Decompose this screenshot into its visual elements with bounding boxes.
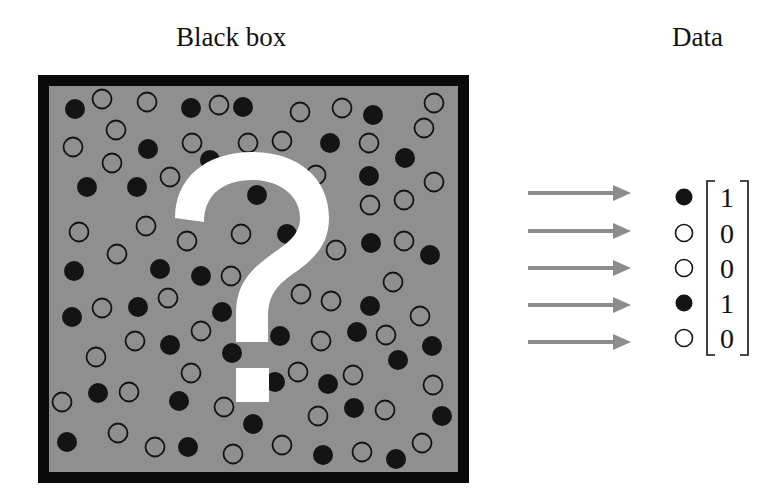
filled-particle: [150, 259, 170, 279]
open-particle: [376, 401, 395, 420]
arrow-icon: [528, 334, 631, 350]
filled-particle: [363, 105, 383, 125]
open-particle: [377, 326, 396, 345]
open-particle: [215, 398, 234, 417]
data-symbols: [676, 189, 693, 347]
filled-particle: [64, 261, 84, 281]
open-particle: [395, 191, 414, 210]
open-particle: [327, 241, 346, 260]
filled-particle: [138, 139, 158, 159]
filled-particle: [359, 166, 379, 186]
filled-particle: [65, 99, 85, 119]
open-particle: [292, 285, 311, 304]
data-value: 1: [720, 182, 734, 213]
open-particle: [53, 393, 72, 412]
diagram-canvas: 10010: [0, 0, 781, 501]
data-vector: 10010: [676, 181, 749, 355]
filled-particle: [422, 336, 442, 356]
open-particle: [322, 292, 341, 311]
filled-particle: [247, 185, 267, 205]
filled-particle: [344, 398, 364, 418]
open-particle: [120, 383, 139, 402]
left-bracket: [707, 181, 715, 355]
filled-particle: [243, 414, 263, 434]
open-particle: [109, 424, 128, 443]
filled-particle: [432, 406, 452, 426]
filled-particle: [77, 177, 97, 197]
open-particle: [93, 299, 112, 318]
filled-particle: [160, 335, 180, 355]
open-dot-icon: [676, 225, 693, 242]
filled-particle: [395, 148, 415, 168]
filled-particle: [313, 445, 333, 465]
arrow-icon: [528, 260, 631, 276]
open-particle: [425, 173, 444, 192]
filled-particle: [386, 449, 406, 469]
data-value: 0: [720, 218, 734, 249]
open-particle: [291, 103, 310, 122]
filled-particle: [178, 437, 198, 457]
filled-particle: [169, 391, 189, 411]
filled-particle: [420, 245, 440, 265]
question-mark-dot: [236, 368, 269, 402]
open-particle: [413, 434, 432, 453]
filled-particle: [57, 432, 77, 452]
filled-particle: [191, 266, 211, 286]
filled-particle: [361, 233, 381, 253]
open-particle: [137, 217, 156, 236]
open-dot-icon: [676, 260, 693, 277]
filled-particle: [320, 133, 340, 153]
open-particle: [222, 267, 241, 286]
filled-dot-icon: [676, 189, 693, 206]
arrow-icon: [528, 185, 631, 201]
data-value: 1: [720, 288, 734, 319]
open-particle: [183, 134, 202, 153]
arrow-icon: [528, 297, 631, 313]
filled-particle: [388, 350, 408, 370]
black-box: [38, 75, 469, 483]
open-particle: [64, 138, 83, 157]
filled-particle: [128, 297, 148, 317]
open-particle: [344, 366, 363, 385]
open-particle: [239, 134, 258, 153]
open-particle: [70, 223, 89, 242]
open-particle: [159, 289, 178, 308]
open-particle: [309, 407, 328, 426]
open-particle: [384, 273, 403, 292]
open-particle: [333, 99, 352, 118]
filled-particle: [212, 302, 232, 322]
filled-particle: [233, 97, 253, 117]
filled-particle: [347, 322, 367, 342]
filled-particle: [318, 374, 338, 394]
open-particle: [273, 436, 292, 455]
filled-particle: [222, 343, 242, 363]
filled-particle: [270, 326, 290, 346]
open-particle: [87, 348, 106, 367]
open-particle: [415, 119, 434, 138]
open-particle: [424, 376, 443, 395]
filled-particle: [127, 177, 147, 197]
arrow-group: [528, 185, 631, 350]
open-particle: [273, 132, 292, 151]
open-particle: [146, 438, 165, 457]
open-particle: [108, 245, 127, 264]
open-particle: [126, 332, 145, 351]
filled-particle: [360, 296, 380, 316]
arrow-icon: [528, 223, 631, 239]
open-particle: [93, 90, 112, 109]
open-particle: [182, 364, 201, 383]
open-particle: [178, 232, 197, 251]
open-particle: [289, 363, 308, 382]
open-particle: [103, 154, 122, 173]
open-particle: [107, 121, 126, 140]
right-bracket: [740, 181, 748, 355]
open-particle: [210, 96, 229, 115]
open-particle: [312, 332, 331, 351]
open-particle: [224, 445, 243, 464]
open-particle: [361, 196, 380, 215]
open-particle: [161, 168, 180, 187]
data-values: 10010: [720, 182, 734, 354]
open-particle: [232, 225, 251, 244]
open-particle: [192, 322, 211, 341]
filled-particle: [88, 383, 108, 403]
